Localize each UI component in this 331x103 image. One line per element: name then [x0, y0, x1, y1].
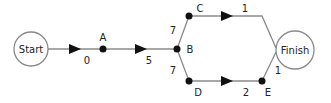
edges: [48, 16, 276, 81]
arrow-icon: [69, 44, 81, 54]
arrow-icon: [135, 44, 147, 54]
weight-e-finish: 1: [275, 65, 281, 76]
node-e-label: E: [265, 87, 271, 98]
node-d-dot: [186, 78, 193, 85]
node-a-dot: [100, 46, 107, 53]
edge-c-finish: [189, 16, 276, 48]
weight-b-c: 7: [170, 25, 176, 36]
node-c-label: C: [197, 3, 204, 14]
node-b-label: B: [187, 44, 194, 55]
weight-start-a: 0: [84, 55, 90, 66]
node-c-dot: [186, 13, 193, 20]
node-d-label: D: [194, 87, 202, 98]
weight-c-finish: 1: [242, 3, 248, 14]
weight-a-b: 5: [146, 55, 152, 66]
start-terminal: Start: [14, 32, 48, 66]
start-label: Start: [19, 44, 44, 55]
arrow-icon: [221, 11, 233, 21]
weight-b-d: 7: [170, 65, 176, 76]
finish-label: Finish: [281, 45, 309, 56]
arrow-icon: [221, 76, 233, 86]
node-b-dot: [174, 46, 181, 53]
node-a-label: A: [100, 32, 107, 43]
activity-network-diagram: Start Finish A B C D E 0 5 7 7 1 2 1: [0, 0, 331, 103]
weight-d-e: 2: [243, 87, 249, 98]
finish-terminal: Finish: [276, 31, 314, 69]
node-e-dot: [259, 78, 266, 85]
